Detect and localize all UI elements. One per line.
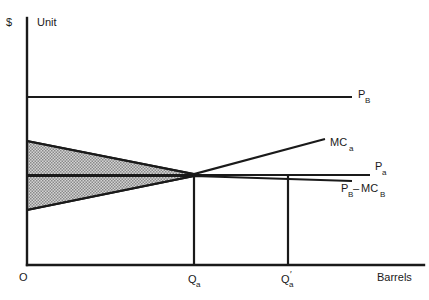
y-axis-denominator-label: Unit xyxy=(37,16,57,28)
x-axis-label: Barrels xyxy=(377,271,412,283)
series-label-pbmcb-operator: – xyxy=(353,182,360,194)
x-tick-label-qa-prime-mark: ′ xyxy=(290,269,292,279)
series-label-pb-subscript: B xyxy=(365,96,370,105)
chart-canvas: $ Unit O Barrels Q a Q ′ a P B MC a P a … xyxy=(0,0,429,300)
economics-figure: $ Unit O Barrels Q a Q ′ a P B MC a P a … xyxy=(0,0,429,300)
x-tick-label-qa-prime-subscript: a xyxy=(289,280,294,289)
series-label-mca: MC xyxy=(330,136,347,148)
series-label-pa-subscript: a xyxy=(382,168,387,177)
series-label-pbmcb-mc: MC xyxy=(361,182,378,194)
x-tick-label-qa-subscript: a xyxy=(196,280,201,289)
origin-label: O xyxy=(19,271,28,283)
y-axis-numerator-label: $ xyxy=(6,16,12,28)
series-label-mca-subscript: a xyxy=(349,144,354,153)
series-label-pbmcb-mc-subscript: B xyxy=(380,190,385,199)
